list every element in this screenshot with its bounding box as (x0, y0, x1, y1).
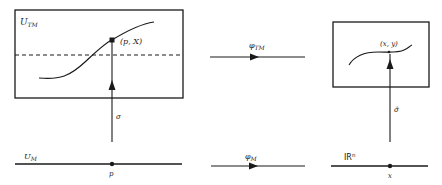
euclidean-space-line: IRn x (331, 152, 428, 180)
utm-box (15, 10, 183, 98)
sigma-hat-arrow: σ̂ (387, 54, 400, 142)
phi-tm-arrowhead-icon (250, 54, 259, 61)
point-x-y-label: (x, y) (380, 40, 398, 48)
um-label: UM (24, 152, 38, 162)
point-x-y-marker (388, 51, 391, 54)
diagram-canvas: UTM (p, X) σ φTM (x, y) σ̂ UM p (0, 0, 442, 185)
sigma-arrowhead-icon (109, 80, 116, 90)
point-p-marker (110, 162, 114, 166)
utm-label: UTM (20, 17, 39, 28)
point-p-label: p (109, 170, 114, 178)
manifold-chart-domain: UM p (15, 152, 182, 178)
image-curve (349, 45, 412, 65)
point-x-label: x (388, 172, 392, 180)
sigma-hat-arrowhead-icon (387, 59, 394, 69)
section-curve (39, 22, 154, 78)
phi-tm-map-arrow: φTM (210, 41, 305, 61)
phi-m-arrowhead-icon (249, 163, 258, 170)
sigma-hat-label: σ̂ (394, 106, 399, 114)
sigma-arrow: σ (109, 42, 122, 142)
point-p-x-marker (110, 38, 115, 43)
point-p-x-label: (p, X) (120, 37, 142, 46)
tangent-bundle-chart: UTM (p, X) (15, 10, 183, 98)
chart-box (333, 22, 429, 87)
rn-label: IRn (344, 152, 356, 162)
phi-m-map-arrow: φM (211, 152, 305, 170)
euclidean-chart: (x, y) (333, 22, 429, 87)
point-x-marker (388, 164, 392, 168)
phi-m-label: φM (245, 152, 258, 162)
sigma-label: σ (116, 113, 121, 121)
phi-tm-label: φTM (249, 41, 266, 51)
